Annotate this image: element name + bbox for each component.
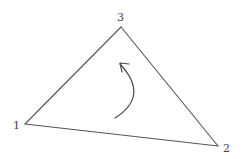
orientation-arrow-icon <box>115 63 134 118</box>
triangle-edges <box>25 27 218 146</box>
vertex-label-1: 1 <box>13 119 20 132</box>
edge-2-3 <box>121 27 218 146</box>
vertex-labels: 1 2 3 <box>13 11 230 155</box>
vertex-label-2: 2 <box>223 142 230 155</box>
triangle-diagram: 1 2 3 <box>0 0 242 159</box>
arrow-curve <box>115 64 134 118</box>
edge-3-1 <box>25 27 121 124</box>
edge-1-2 <box>25 124 218 146</box>
arrow-head-icon <box>120 63 129 72</box>
vertex-label-3: 3 <box>117 11 124 24</box>
